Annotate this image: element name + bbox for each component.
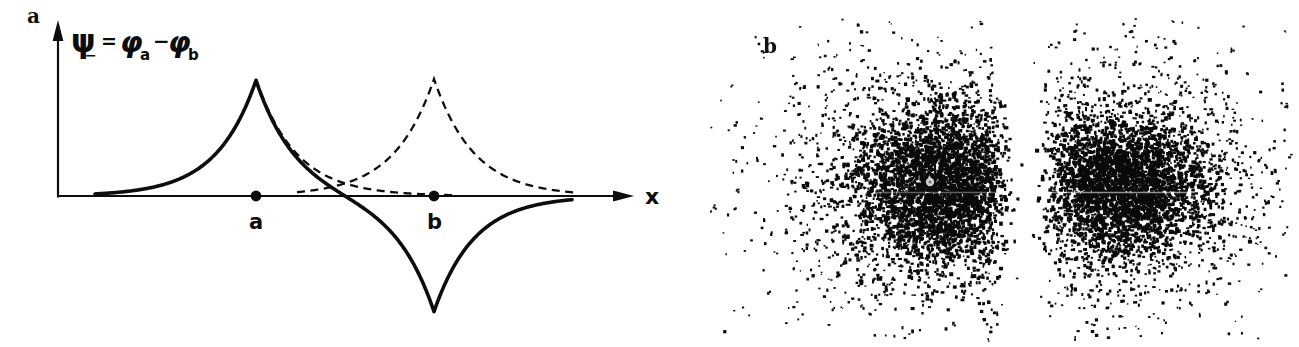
orbital-plot: a b x ψ − = φ a − φ b [0,0,690,347]
x-axis-label: x [645,184,659,209]
formula-phi-b-sub: b [188,46,199,64]
phi-b-dashed-curve [297,79,576,193]
figure: a a b x ψ − = φ [0,0,1299,347]
x-axis-arrow-icon [613,191,634,202]
panel-a-label: a [27,6,40,26]
electron-density-scatter [690,0,1299,347]
formula-phi-a-sub: a [140,46,150,64]
y-axis-arrow-icon [53,20,64,41]
panel-b: b [690,0,1299,347]
formula-equals: = [101,30,117,52]
phi-a-dashed-curve [256,79,452,195]
nucleus-a-dot [251,191,262,202]
nucleus-b-label: b [427,210,442,234]
panel-b-label: b [763,36,777,56]
nucleus-a-label: a [249,210,263,234]
panel-a: a a b x ψ − = φ [0,0,690,347]
nucleus-b-dot [429,191,440,202]
formula: ψ − = φ a − φ b [71,23,199,64]
formula-psi-sub: − [85,47,97,63]
